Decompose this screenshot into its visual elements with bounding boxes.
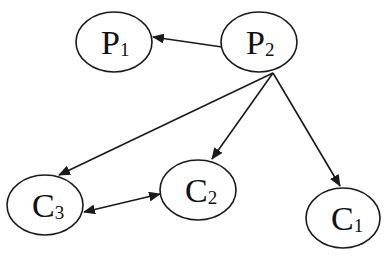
edge-p2-to-c1 — [273, 73, 340, 186]
node-c3: C3 — [7, 175, 83, 235]
edge-p2-to-p1 — [153, 37, 222, 47]
node-p2: P2 — [221, 12, 297, 72]
node-p1: P1 — [76, 12, 152, 72]
edge-p2-to-c2 — [212, 73, 273, 159]
edge-p2-to-c3 — [59, 73, 273, 175]
node-c1: C1 — [306, 188, 380, 248]
diagram-canvas: P1 P2 C3 C2 C1 — [0, 0, 388, 258]
edge-c3-c2-bidirectional — [84, 194, 160, 212]
node-c2: C2 — [160, 160, 236, 220]
